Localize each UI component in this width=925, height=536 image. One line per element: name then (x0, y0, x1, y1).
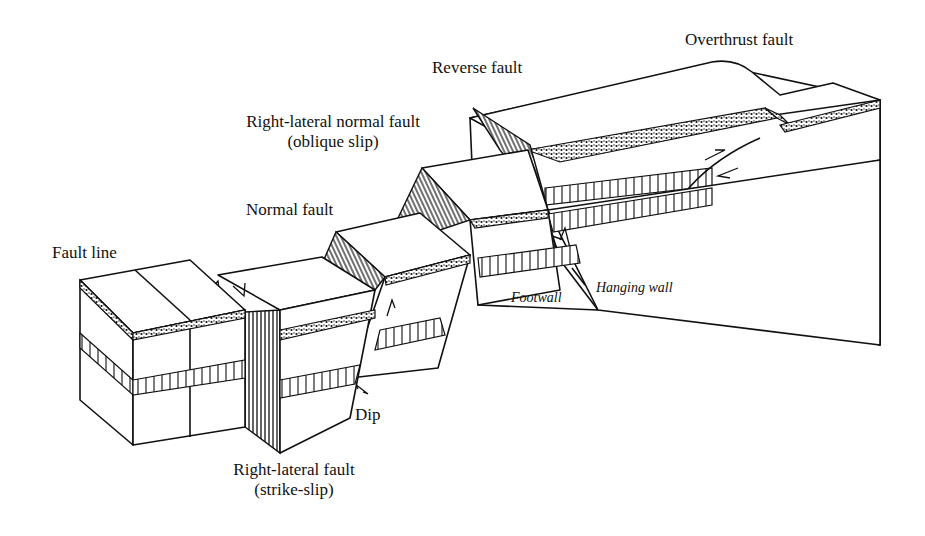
label-dip: Dip (355, 405, 381, 425)
label-footwall: Footwall (511, 288, 562, 308)
diagram-canvas (0, 0, 925, 536)
label-oblique-slip: Right-lateral normal fault (oblique slip… (226, 112, 440, 152)
label-strike-slip: Right-lateral fault (strike-slip) (214, 460, 374, 500)
label-reverse-fault: Reverse fault (432, 58, 522, 78)
label-oblique-slip-line2: (oblique slip) (226, 132, 440, 152)
label-overthrust-fault: Overthrust fault (685, 30, 793, 50)
fault-types-diagram: Fault line Normal fault Right-lateral no… (0, 0, 925, 536)
label-strike-slip-line1: Right-lateral fault (214, 460, 374, 480)
label-hanging-wall: Hanging wall (596, 278, 673, 298)
label-normal-fault: Normal fault (246, 200, 333, 220)
label-oblique-slip-line1: Right-lateral normal fault (226, 112, 440, 132)
fault-line-block (80, 260, 245, 445)
label-strike-slip-line2: (strike-slip) (214, 480, 374, 500)
strike-slip-wall (245, 310, 280, 453)
label-fault-line: Fault line (52, 243, 117, 263)
